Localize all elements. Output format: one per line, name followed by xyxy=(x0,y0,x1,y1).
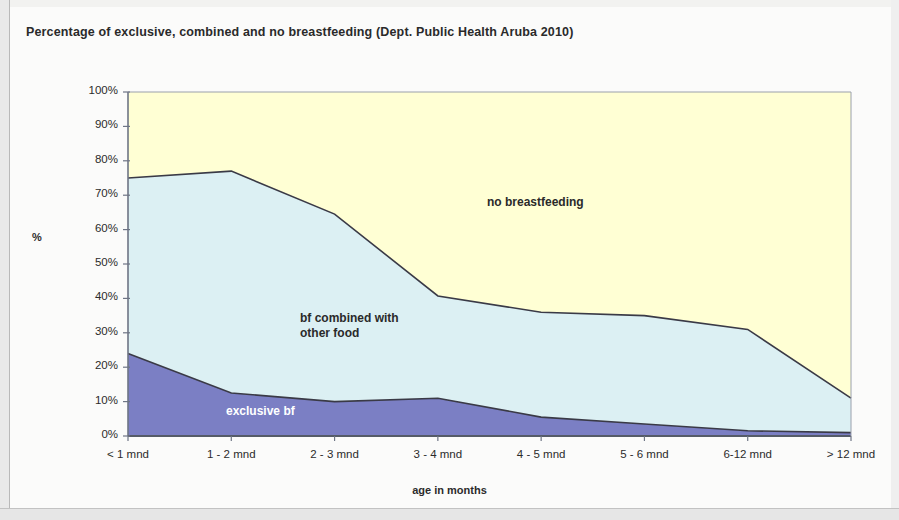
x-tick-label: 4 - 5 mnd xyxy=(491,448,591,460)
x-tick-label: 1 - 2 mnd xyxy=(181,448,281,460)
y-tick-label: 20% xyxy=(66,359,118,371)
y-tick-label: 30% xyxy=(66,325,118,337)
series-label-exclusive-bf: exclusive bf xyxy=(226,404,295,419)
y-tick-label: 90% xyxy=(66,118,118,130)
series-label-bf-combined: bf combined with other food xyxy=(300,311,399,341)
plot-area xyxy=(0,0,899,520)
chart-figure: Percentage of exclusive, combined and no… xyxy=(0,0,899,520)
y-tick-label: 100% xyxy=(66,84,118,96)
x-axis-title: age in months xyxy=(0,484,899,496)
y-tick-label: 70% xyxy=(66,187,118,199)
y-tick-label: 0% xyxy=(66,428,118,440)
y-tick-label: 40% xyxy=(66,290,118,302)
x-tick-label: < 1 mnd xyxy=(78,448,178,460)
y-tick-label: 10% xyxy=(66,394,118,406)
x-tick-label: 5 - 6 mnd xyxy=(594,448,694,460)
area-chart-svg xyxy=(0,0,899,520)
series-label-no-breastfeeding: no breastfeeding xyxy=(487,195,584,210)
y-axis-title: % xyxy=(32,231,42,243)
y-tick-label: 80% xyxy=(66,153,118,165)
x-tick-label: > 12 mnd xyxy=(801,448,899,460)
x-tick-label: 3 - 4 mnd xyxy=(388,448,488,460)
y-tick-label: 60% xyxy=(66,222,118,234)
y-tick-label: 50% xyxy=(66,256,118,268)
x-tick-label: 6-12 mnd xyxy=(698,448,798,460)
series-areas xyxy=(128,92,851,436)
x-tick-label: 2 - 3 mnd xyxy=(285,448,385,460)
